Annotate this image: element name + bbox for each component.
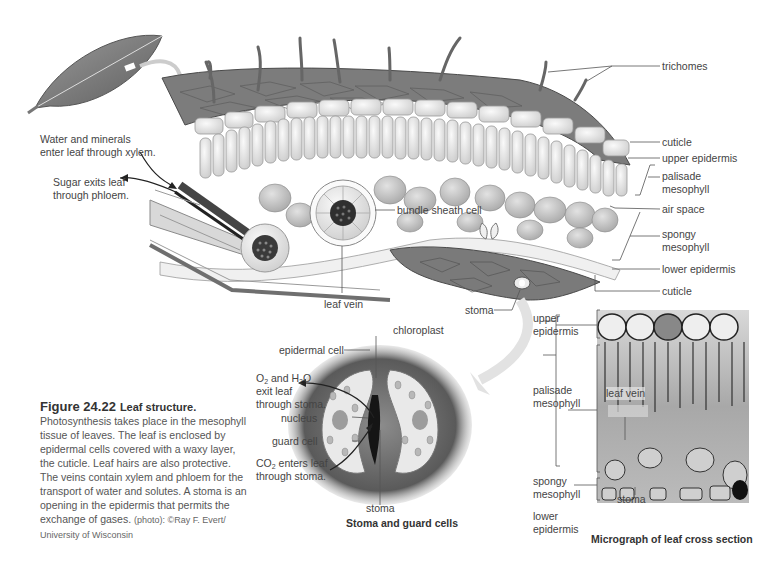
label-bundle-sheath-cell: bundle sheath cell [397, 204, 482, 217]
label-co2-enters: CO2 enters leaf through stoma. [256, 457, 328, 483]
label-stoma-main: stoma [465, 304, 494, 317]
micro-label-leaf-vein: leaf vein [606, 387, 645, 400]
label-lower-epidermis: lower epidermis [662, 263, 736, 276]
figure-number: Figure 24.22 [40, 399, 116, 414]
phloem-note: Sugar exits leaf through phloem. [53, 176, 129, 202]
label-nucleus: nucleus [281, 412, 317, 425]
micro-label-stoma: stoma [617, 493, 646, 506]
subcaption-micrograph: Micrograph of leaf cross section [591, 533, 753, 545]
label-stoma-detail: stoma [366, 502, 395, 515]
label-palisade-mesophyll: palisade mesophyll [662, 170, 709, 196]
label-cuticle-top: cuticle [662, 136, 692, 149]
figure-title: Leaf structure. [120, 401, 196, 413]
bundle-sheath-graphic [310, 180, 376, 246]
label-upper-epidermis: upper epidermis [662, 152, 737, 165]
label-leaf-vein: leaf vein [324, 298, 363, 311]
label-air-space: air space [662, 203, 705, 216]
label-trichomes: trichomes [662, 60, 708, 73]
figure-caption: Figure 24.22Leaf structure. Photosynthes… [40, 400, 250, 542]
stoma-cross-section-graphic [480, 223, 498, 239]
label-chloroplast: chloroplast [393, 324, 444, 337]
micro-label-upper-epidermis: upper epidermis [533, 312, 579, 338]
label-spongy-mesophyll: spongy mesophyll [662, 228, 709, 254]
figure-caption-text: Photosynthesis takes place in the mesoph… [40, 415, 247, 525]
label-epidermal-cell: epidermal cell [279, 344, 344, 357]
xylem-note: Water and minerals enter leaf through xy… [40, 133, 156, 159]
whole-leaf-icon [28, 35, 180, 113]
micro-label-palisade-mesophyll: palisade mesophyll [533, 384, 580, 410]
micrograph-image [597, 310, 749, 503]
label-cuticle-bottom: cuticle [662, 285, 692, 298]
label-guard-cell: guard cell [272, 435, 318, 448]
label-o2-h2o-exit: O2 and H2O exit leaf through stoma. [256, 372, 326, 411]
subcaption-stoma-guard-cells: Stoma and guard cells [346, 517, 458, 529]
micro-label-lower-epidermis: lower epidermis [533, 510, 579, 536]
micro-label-spongy-mesophyll: spongy mesophyll [533, 475, 580, 501]
